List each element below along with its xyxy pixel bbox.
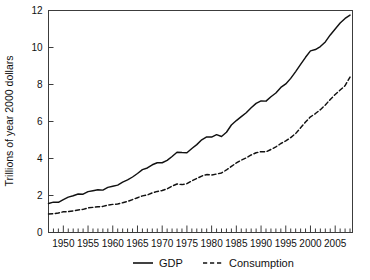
x-axis-minor-ticks bbox=[49, 229, 351, 233]
gdp-line bbox=[49, 15, 351, 203]
x-tick-label: 1975 bbox=[176, 238, 199, 249]
chart-legend: GDP Consumption bbox=[133, 257, 294, 269]
y-tick-label: 8 bbox=[37, 79, 43, 90]
x-axis-major-ticks bbox=[63, 226, 335, 233]
gdp-consumption-figure: 024681012 195019551960196519701975198019… bbox=[0, 0, 370, 280]
x-tick-label: 1995 bbox=[275, 238, 298, 249]
y-tick-label: 2 bbox=[37, 190, 43, 201]
y-tick-label: 10 bbox=[31, 42, 43, 53]
legend-label-consumption: Consumption bbox=[229, 257, 294, 269]
x-tick-label: 1965 bbox=[126, 238, 149, 249]
line-chart: 024681012 195019551960196519701975198019… bbox=[0, 0, 370, 280]
x-axis-tick-labels: 1950195519601965197019751980198519901995… bbox=[52, 238, 347, 249]
y-axis-tick-labels: 024681012 bbox=[31, 5, 43, 238]
y-tick-label: 4 bbox=[37, 153, 43, 164]
x-tick-label: 2005 bbox=[324, 238, 347, 249]
x-tick-label: 1990 bbox=[250, 238, 273, 249]
consumption-line bbox=[49, 77, 351, 214]
legend-label-gdp: GDP bbox=[159, 257, 183, 269]
x-tick-label: 1980 bbox=[200, 238, 223, 249]
x-tick-label: 1985 bbox=[225, 238, 248, 249]
y-tick-label: 6 bbox=[37, 116, 43, 127]
x-tick-label: 1950 bbox=[52, 238, 75, 249]
x-tick-label: 1960 bbox=[102, 238, 125, 249]
y-axis-ticks bbox=[49, 11, 54, 233]
x-tick-label: 1970 bbox=[151, 238, 174, 249]
y-axis-title: Trillions of year 2000 dollars bbox=[3, 56, 15, 187]
y-tick-label: 12 bbox=[31, 5, 43, 16]
x-tick-label: 1955 bbox=[77, 238, 100, 249]
x-tick-label: 2000 bbox=[299, 238, 322, 249]
y-tick-label: 0 bbox=[37, 227, 43, 238]
